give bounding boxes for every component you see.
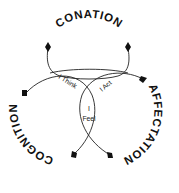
arrow-icon-cognition-top <box>22 90 27 96</box>
arrow-icon-conation-right <box>125 42 131 52</box>
venn-cycle-diagram: CONATION AFFECTATION COGNITION I Think I… <box>0 0 179 193</box>
label-i-feel-line1: I <box>88 105 90 112</box>
arrow-icon-conation-left <box>45 42 51 52</box>
label-i-act: I Act <box>98 79 113 93</box>
label-affectation: AFFECTATION <box>122 82 165 167</box>
label-i-feel-line2: Feel <box>82 115 96 122</box>
label-cognition: COGNITION <box>7 104 55 168</box>
diagram-canvas: CONATION AFFECTATION COGNITION I Think I… <box>0 0 179 193</box>
label-conation: CONATION <box>53 8 125 30</box>
label-i-think: I Think <box>57 73 78 90</box>
arrow-icon-affectation-top <box>139 76 147 83</box>
arrow-icon-affectation-bottom <box>107 152 113 158</box>
